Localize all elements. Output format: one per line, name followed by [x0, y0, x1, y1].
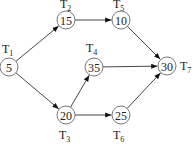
edge-t3-t4 — [71, 75, 90, 107]
edge-t1-t2 — [16, 26, 59, 61]
edge-t4-t7 — [103, 66, 158, 67]
node-value: 35 — [88, 61, 100, 75]
node-label: T3 — [59, 128, 70, 144]
node-label: T1 — [2, 42, 13, 58]
node-t2: 15T2 — [57, 0, 75, 29]
node-value: 15 — [60, 14, 72, 28]
node-label: T7 — [180, 59, 191, 75]
node-t4: 35T4 — [85, 41, 103, 76]
node-t1: 5T1 — [0, 42, 18, 76]
node-value: 30 — [161, 60, 173, 74]
node-value: 5 — [6, 61, 12, 75]
task-graph: 5T115T220T335T410T525T630T7 — [0, 0, 195, 144]
node-value: 10 — [115, 14, 127, 28]
node-label: T6 — [113, 128, 124, 144]
edge-t5-t7 — [127, 26, 160, 59]
node-t5: 10T5 — [112, 0, 130, 29]
node-t7: 30T7 — [158, 57, 191, 75]
node-value: 25 — [115, 109, 127, 123]
node-label: T4 — [86, 41, 97, 57]
nodes: 5T115T220T335T410T525T630T7 — [0, 0, 191, 144]
edge-t6-t7 — [127, 73, 160, 109]
edge-t1-t3 — [16, 73, 59, 109]
node-t3: 20T3 — [57, 106, 75, 144]
node-t6: 25T6 — [112, 106, 130, 144]
node-value: 20 — [60, 109, 72, 123]
